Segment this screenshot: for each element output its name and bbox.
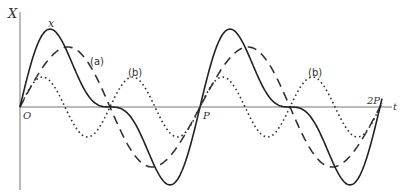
curve-a-label: (a) <box>90 56 104 67</box>
tick-label-p: P <box>202 110 210 121</box>
y-axis-label: X <box>7 6 18 21</box>
tick-label-2p: 2P <box>366 95 380 106</box>
curve-b-label: (b) <box>128 67 142 78</box>
curve-x-label: x <box>48 17 55 30</box>
origin-label: O <box>23 110 31 121</box>
waveform-diagram: X t O P 2P x (a) (b) (b) <box>0 0 402 194</box>
curve-b-label-second: (b) <box>308 67 322 78</box>
x-axis-label: t <box>393 101 398 112</box>
